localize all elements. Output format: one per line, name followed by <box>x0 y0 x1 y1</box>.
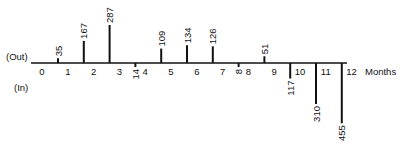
month-tick-labels: 0123456789101112 <box>39 66 357 77</box>
month-tick-label: 4 <box>143 66 148 77</box>
month-tick-label: 6 <box>194 66 199 77</box>
value-label: 310 <box>311 106 322 122</box>
value-label: 109 <box>156 31 167 47</box>
month-tick-label: 8 <box>246 66 251 77</box>
month-tick-label: 1 <box>65 66 70 77</box>
value-label: 35 <box>53 46 64 57</box>
month-tick-label: 12 <box>346 66 357 77</box>
month-tick-label: 2 <box>91 66 96 77</box>
month-tick-label: 5 <box>168 66 173 77</box>
value-label: 126 <box>207 28 218 44</box>
value-label: 287 <box>104 7 115 23</box>
value-label: 117 <box>285 80 296 95</box>
month-tick-label: 9 <box>272 66 277 77</box>
value-label: 455 <box>336 125 347 141</box>
value-label: 134 <box>182 27 193 43</box>
month-tick-label: 7 <box>220 66 225 77</box>
cash-flow-diagram: (Out) (In) 0123456789101112 Months 35167… <box>0 0 406 144</box>
month-tick-label: 10 <box>295 66 306 77</box>
month-tick-label: 0 <box>39 66 44 77</box>
value-label: 51 <box>259 44 270 55</box>
month-tick-label: 3 <box>117 66 122 77</box>
x-axis-label: Months <box>365 66 396 77</box>
in-label: (In) <box>14 82 28 93</box>
value-label: 8 <box>233 69 244 74</box>
value-label: 167 <box>78 23 89 39</box>
value-label: 14 <box>130 69 141 80</box>
out-label: (Out) <box>6 51 28 62</box>
month-tick-label: 11 <box>321 66 331 77</box>
